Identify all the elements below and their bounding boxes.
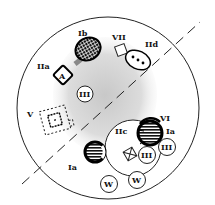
label-III-bottom-2: III	[161, 142, 172, 152]
region-Ia-left	[85, 142, 105, 162]
label-W-1: W	[103, 179, 114, 189]
label-VI: VI	[159, 113, 170, 123]
label-Ia-left: Ia	[68, 162, 77, 172]
label-W-2: W	[131, 175, 142, 185]
label-III-top: III	[79, 89, 90, 99]
label-III-bottom-1: III	[141, 150, 152, 160]
label-Ib: Ib	[78, 28, 88, 38]
label-Ia-right: Ia	[166, 126, 175, 136]
label-IIa: IIa	[37, 61, 50, 71]
label-V: V	[26, 109, 34, 119]
cell-diagram: IIc Ib A IIa III VII IId V Ia VI Ia	[0, 0, 215, 205]
label-VII: VII	[111, 32, 126, 42]
label-IId: IId	[145, 39, 158, 49]
label-A: A	[58, 71, 66, 81]
label-IIc: IIc	[115, 126, 127, 136]
